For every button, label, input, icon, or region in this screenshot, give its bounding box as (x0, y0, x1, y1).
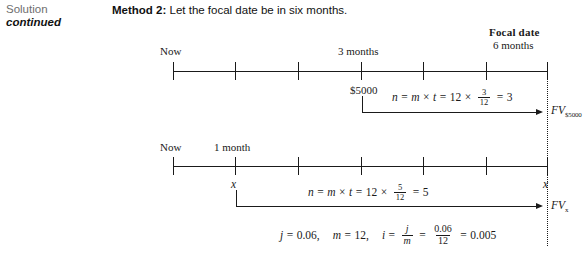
focal-date-subtitle: 6 months (493, 39, 534, 51)
eq-top-times-2: × (461, 91, 475, 103)
timeline-bottom-tick-1 (235, 157, 236, 175)
timeline-top-tick-2 (298, 62, 299, 80)
param-i-fraction-value-denominator: 12 (436, 235, 450, 247)
timeline-bottom-arrow-head (536, 203, 543, 209)
eq-bottom-fraction-numerator: 5 (396, 183, 404, 192)
timeline-top-now-label: Now (160, 45, 181, 57)
timeline-top-arrow-head (536, 109, 543, 115)
eq-bottom-fraction-denominator: 12 (394, 192, 407, 202)
timeline-top-tick-4 (423, 62, 424, 80)
solution-page: Solution continued Method 2: Let the foc… (0, 0, 583, 257)
timeline-bottom-1month-label: 1 month (214, 141, 250, 153)
timeline-top-tick-0 (173, 62, 174, 80)
eq-bottom-twelve: 12 (366, 186, 378, 198)
eq-top-twelve: 12 (450, 91, 462, 103)
param-i-fraction-jm-numerator: j (404, 224, 411, 235)
eq-bottom-times-2: × (377, 186, 391, 198)
method-heading-rest: Let the focal date be in six months. (166, 4, 347, 16)
timeline-top-tick-3 (361, 62, 362, 80)
timeline-bottom-tick-6 (547, 157, 548, 175)
timeline-top-tick-5 (486, 62, 487, 80)
solution-margin-label: Solution (6, 3, 48, 16)
timeline-bottom-tick-0 (173, 157, 174, 175)
timeline-bottom-fv-subscript: x (565, 206, 568, 214)
eq-bottom-result: 5 (423, 186, 429, 198)
timeline-bottom-x-end-label: x (543, 178, 548, 190)
param-i-fraction-value-numerator: 0.06 (432, 224, 454, 235)
eq-top-times-1: × (420, 91, 434, 103)
focal-date-title: Focal date (489, 26, 540, 38)
eq-bottom-m: m (327, 186, 335, 198)
param-i-fraction-value: 0.06 12 (432, 224, 454, 246)
eq-top-equals-3: = (493, 91, 507, 103)
eq-bottom-equals-2: = (352, 186, 366, 198)
timeline-top-3months-label: 3 months (338, 45, 379, 57)
timeline-top-n-equation: n = m × t = 12 × 3 12 = 3 (392, 88, 513, 107)
method-heading: Method 2: Let the focal date be in six m… (112, 3, 347, 17)
param-i-equals-1: = (385, 229, 399, 241)
eq-bottom-times-1: × (336, 186, 350, 198)
param-i-equals-2: = (416, 229, 430, 241)
param-m-value: 12, (355, 229, 369, 241)
timeline-bottom-bracket-arrow-line (236, 206, 537, 207)
eq-bottom-equals-1: = (314, 186, 328, 198)
timeline-top-bracket-arrow-line (362, 112, 537, 113)
eq-top-fraction: 3 12 (478, 88, 491, 107)
param-i-fraction-jm: j m (402, 224, 413, 246)
timeline-bottom-x-start-label: x (231, 178, 236, 190)
param-i-equals-3: = (457, 229, 471, 241)
param-i-value: 0.005 (470, 229, 496, 241)
timeline-top-amount-label: $5000 (350, 84, 378, 96)
timeline-bottom-fv-symbol: FV (551, 199, 565, 211)
timeline-bottom-now-label: Now (160, 141, 181, 153)
timeline-top-fv-subscript: $5000 (565, 111, 582, 119)
continued-margin-label: continued (6, 16, 61, 29)
eq-top-m: m (411, 91, 419, 103)
timeline-bottom-tick-5 (486, 157, 487, 175)
eq-top-equals-1: = (398, 91, 412, 103)
timeline-bottom-tick-4 (423, 157, 424, 175)
timeline-bottom-tick-2 (298, 157, 299, 175)
timeline-top-tick-6 (547, 62, 548, 80)
param-j-value: 0.06, (297, 229, 320, 241)
eq-bottom-fraction: 5 12 (394, 183, 407, 202)
eq-bottom-equals-3: = (409, 186, 423, 198)
param-i-fraction-jm-denominator: m (402, 235, 413, 247)
eq-top-fraction-numerator: 3 (480, 88, 488, 97)
timeline-top-bracket-drop (362, 96, 363, 113)
parameter-equation-line: j = 0.06, m = 12, i = j m = 0.06 12 = 0.… (280, 224, 496, 246)
timeline-top-fv-symbol: FV (551, 104, 565, 116)
timeline-bottom-n-equation: n = m × t = 12 × 5 12 = 5 (308, 183, 429, 202)
method-heading-bold: Method 2: (112, 4, 166, 16)
timeline-top-future-value: FV$5000 (551, 104, 582, 119)
timeline-bottom-future-value: FVx (551, 199, 568, 214)
timeline-bottom-tick-3 (361, 157, 362, 175)
timeline-bottom-bracket-drop (236, 190, 237, 207)
eq-top-equals-2: = (436, 91, 450, 103)
timeline-top-tick-1 (235, 62, 236, 80)
param-m-symbol: m (333, 229, 341, 241)
eq-top-fraction-denominator: 12 (478, 97, 491, 107)
param-j-equals: = (283, 229, 297, 241)
eq-top-result: 3 (507, 91, 513, 103)
param-m-equals: = (341, 229, 355, 241)
